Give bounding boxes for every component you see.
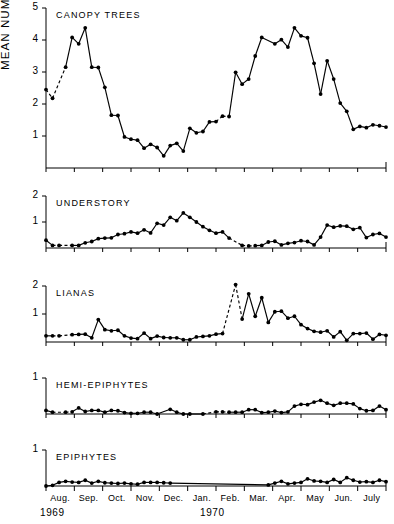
data-point [44,238,48,242]
data-point [351,332,355,336]
data-point [116,482,120,486]
data-point [103,410,107,414]
data-point [227,115,231,119]
data-point [83,410,87,414]
data-point [221,332,225,336]
data-point [306,36,310,40]
data-point [332,225,336,229]
series-segment [79,28,86,44]
data-point [123,411,127,415]
data-point [168,215,172,219]
data-point [51,244,55,248]
data-point [194,335,198,339]
data-point [51,96,55,100]
data-point [208,228,212,232]
data-point [279,309,283,313]
data-point [338,401,342,405]
data-point [364,236,368,240]
data-point [221,114,225,118]
data-point [286,241,290,245]
data-point [332,403,336,407]
data-point [247,408,251,412]
data-point [358,332,362,336]
data-point [175,141,179,145]
series-segment [229,238,242,245]
data-point [142,331,146,335]
data-point [325,401,329,405]
series-segment [321,225,328,237]
data-point [149,142,153,146]
data-point [325,481,329,485]
data-point [109,236,113,240]
series-segment [53,67,66,98]
data-point [149,481,153,485]
data-point [332,77,336,81]
data-point [44,409,48,413]
data-point [351,127,355,131]
data-point [103,236,107,240]
year-label: 1970 [200,507,225,518]
data-point [384,408,388,412]
data-point [240,317,244,321]
series-segment [236,72,243,84]
data-point [64,65,68,69]
data-point [103,481,107,485]
data-point [312,329,316,333]
data-point [123,481,127,485]
data-point [378,124,382,128]
data-point [273,310,277,314]
data-point [306,403,310,407]
data-point [338,224,342,228]
data-point [57,334,61,338]
data-point [181,338,185,342]
series-segment [262,298,269,323]
data-point [253,54,257,58]
data-point [319,92,323,96]
data-point [103,85,107,89]
data-point [371,233,375,237]
data-point [83,26,87,30]
data-point [273,239,277,243]
data-point [345,109,349,113]
data-point [247,244,251,248]
data-point [57,481,61,485]
data-point [136,337,140,341]
data-point [194,220,198,224]
data-point [273,42,277,46]
data-point [351,227,355,231]
data-point [247,292,251,296]
data-point [214,231,218,235]
data-point [338,101,342,105]
data-point [142,228,146,232]
series-segment [327,61,334,79]
data-point [345,224,349,228]
data-point [293,314,297,318]
data-point [299,239,303,243]
data-point [162,481,166,485]
series-segment [59,335,72,336]
data-point [378,404,382,408]
data-point [51,410,55,414]
data-point [149,231,153,235]
data-point [181,149,185,153]
data-point [155,481,159,485]
data-point [136,138,140,142]
data-point [142,410,146,414]
series-segment [249,56,256,79]
series-segment [229,72,236,116]
series-segment [308,38,315,64]
data-point [358,407,362,411]
data-point [358,125,362,129]
data-point [312,243,316,247]
panel-title: UNDERSTORY [56,198,131,208]
data-point [299,323,303,327]
data-point [286,482,290,486]
data-point [364,126,368,130]
data-point [279,38,283,42]
data-point [44,484,48,488]
data-point [221,230,225,234]
data-point [306,240,310,244]
data-point [77,406,81,410]
data-point [96,479,100,483]
series-segment [347,111,354,129]
